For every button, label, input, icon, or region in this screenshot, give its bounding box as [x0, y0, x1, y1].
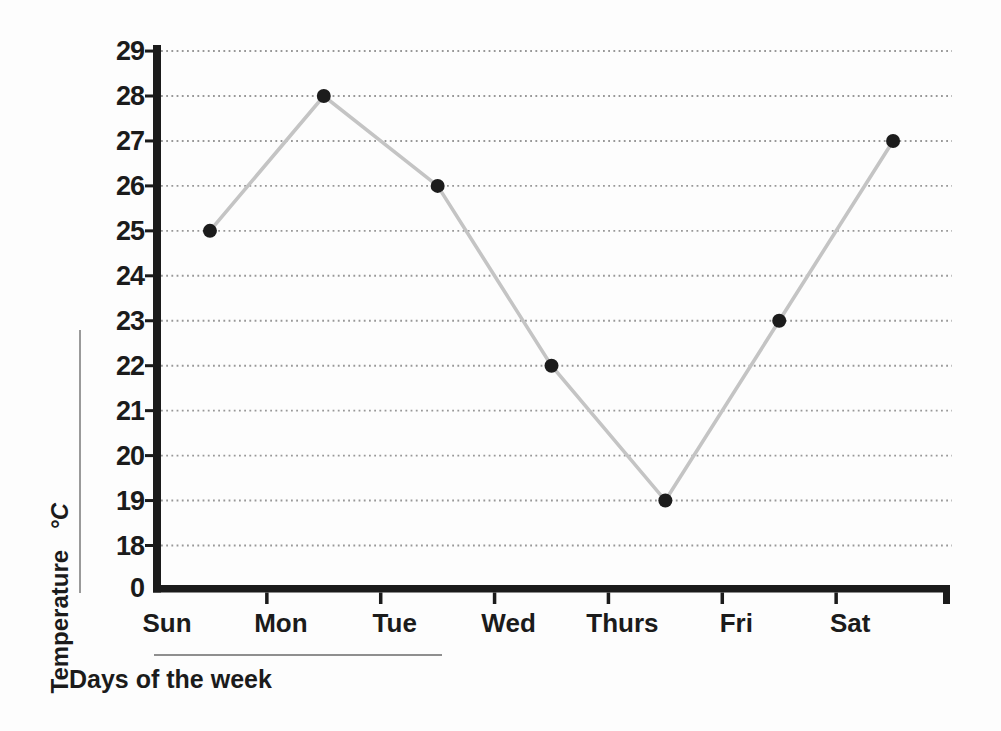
scanned-figure-page: 0181920212223242526272829 SunMonTueWedTh…	[0, 0, 1001, 731]
y-tick-mark-23	[145, 319, 153, 322]
x-tick-mark-1	[265, 593, 269, 605]
x-tick-label-fri: Fri	[720, 608, 753, 638]
y-tick-label-19: 19	[98, 485, 144, 517]
y-tick-label-24: 24	[98, 260, 144, 292]
data-point-mon	[317, 89, 331, 103]
x-tick-mark-2	[379, 593, 383, 605]
x-tick-label-sun: Sun	[142, 608, 191, 638]
y-tick-mark-29	[145, 50, 153, 53]
x-tick-label-tue: Tue	[373, 608, 417, 638]
x-tick-label-wed: Wed	[481, 608, 535, 638]
y-tick-label-23: 23	[98, 305, 144, 337]
y-tick-mark-27	[145, 139, 153, 142]
y-tick-mark-21	[145, 409, 153, 412]
x-axis-line	[153, 585, 950, 593]
y-tick-label-25: 25	[98, 215, 144, 247]
x-tick-mark-4	[607, 593, 611, 605]
x-axis-end-tick	[943, 585, 950, 604]
x-axis-title-rule	[154, 654, 442, 656]
y-tick-label-26: 26	[98, 170, 144, 202]
data-point-thurs	[658, 494, 672, 508]
y-tick-label-28: 28	[98, 80, 144, 112]
y-axis-unit: °C	[46, 503, 74, 530]
y-tick-mark-20	[145, 454, 153, 457]
y-tick-mark-22	[145, 364, 153, 367]
x-tick-mark-6	[834, 593, 838, 605]
y-axis-title-rule	[79, 330, 81, 593]
x-tick-mark-5	[721, 593, 725, 605]
y-tick-mark-26	[145, 184, 153, 187]
x-tick-mark-3	[493, 593, 497, 605]
y-tick-label-21: 21	[98, 395, 144, 427]
data-point-sat	[886, 134, 900, 148]
y-tick-mark-19	[145, 499, 153, 502]
y-tick-label-0: 0	[98, 572, 144, 604]
x-tick-label-mon: Mon	[254, 608, 307, 638]
y-tick-mark-24	[145, 274, 153, 277]
y-tick-label-27: 27	[98, 125, 144, 157]
y-axis-line	[153, 45, 161, 593]
y-tick-mark-28	[145, 95, 153, 98]
data-point-fri	[772, 314, 786, 328]
data-point-tue	[431, 179, 445, 193]
x-axis-title: Days of the week	[69, 664, 272, 694]
y-tick-label-20: 20	[98, 440, 144, 472]
y-tick-label-29: 29	[98, 35, 144, 67]
y-tick-mark-18	[145, 544, 153, 547]
y-tick-label-18: 18	[98, 530, 144, 562]
temperature-line	[210, 96, 893, 501]
data-point-wed	[545, 359, 559, 373]
y-tick-label-22: 22	[98, 350, 144, 382]
data-point-sun	[203, 224, 217, 238]
x-tick-label-sat: Sat	[830, 608, 870, 638]
y-tick-mark-25	[145, 229, 153, 232]
x-tick-label-thurs: Thurs	[586, 608, 658, 638]
